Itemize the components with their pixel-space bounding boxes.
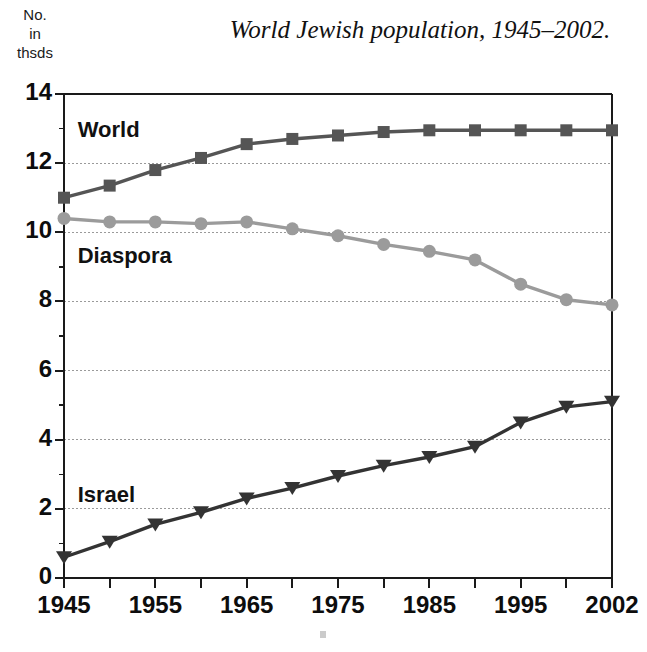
- data-point-marker: [195, 152, 207, 164]
- data-point-marker: [56, 551, 72, 564]
- chart-figure: No. in thsds World Jewish population, 19…: [0, 0, 647, 652]
- data-point-marker: [241, 138, 253, 150]
- y-axis-tick-label: 2: [6, 493, 52, 521]
- data-point-marker: [104, 180, 116, 192]
- x-axis-tick-label: 1965: [202, 591, 292, 619]
- x-axis-tick-label: 1975: [293, 591, 383, 619]
- series-label-israel: Israel: [78, 482, 136, 508]
- series-label-world: World: [78, 117, 140, 143]
- data-point-marker: [423, 245, 436, 258]
- data-point-marker: [423, 124, 435, 136]
- data-point-marker: [332, 129, 344, 141]
- data-point-marker: [606, 298, 619, 311]
- data-point-marker: [286, 222, 299, 235]
- y-axis-tick-label: 6: [6, 355, 52, 383]
- data-point-marker: [195, 217, 208, 230]
- data-point-marker: [378, 126, 390, 138]
- series-label-diaspora: Diaspora: [78, 243, 172, 269]
- data-point-marker: [514, 278, 527, 291]
- series-israel: [56, 396, 620, 565]
- data-point-marker: [469, 124, 481, 136]
- x-axis-tick-label: 1955: [110, 591, 200, 619]
- data-point-marker: [513, 416, 529, 429]
- x-axis-tick-label: 1985: [384, 591, 474, 619]
- x-axis-tick-label: 2002: [567, 591, 647, 619]
- data-point-marker: [469, 253, 482, 266]
- plot-area: [0, 0, 647, 652]
- data-point-marker: [149, 164, 161, 176]
- data-point-marker: [377, 238, 390, 251]
- data-point-marker: [606, 124, 618, 136]
- y-axis-tick-label: 8: [6, 285, 52, 313]
- series-world: [58, 124, 618, 203]
- y-axis-tick-label: 4: [6, 424, 52, 452]
- data-point-marker: [560, 124, 572, 136]
- data-point-marker: [560, 293, 573, 306]
- data-point-marker: [58, 212, 71, 225]
- data-point-marker: [332, 229, 345, 242]
- data-point-marker: [286, 133, 298, 145]
- y-axis-tick-label: 14: [6, 78, 52, 106]
- scan-artifact: [320, 631, 326, 638]
- x-axis-tick-label: 1945: [19, 591, 109, 619]
- y-axis-tick-label: 10: [6, 216, 52, 244]
- data-point-marker: [58, 192, 70, 204]
- data-point-marker: [103, 215, 116, 228]
- data-point-marker: [240, 215, 253, 228]
- data-point-marker: [515, 124, 527, 136]
- y-axis-tick-label: 12: [6, 147, 52, 175]
- x-axis-tick-label: 1995: [476, 591, 566, 619]
- y-axis-tick-label: 0: [6, 562, 52, 590]
- data-point-marker: [149, 215, 162, 228]
